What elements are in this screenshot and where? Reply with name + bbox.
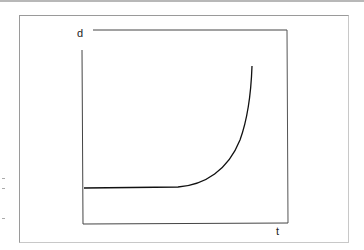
x-axis-line xyxy=(83,223,288,224)
x-axis-label: t xyxy=(276,226,279,237)
growth-curve xyxy=(84,66,252,188)
y-axis-line xyxy=(82,50,83,224)
diagram-plot xyxy=(0,0,364,250)
right-border-line xyxy=(287,30,288,223)
y-axis-label: d xyxy=(77,28,83,39)
